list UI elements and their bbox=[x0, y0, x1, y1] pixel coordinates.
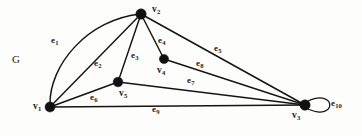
edge-e9 bbox=[50, 105, 305, 107]
graph-canvas bbox=[0, 0, 362, 136]
edge-label-e4-subscript: 4 bbox=[162, 39, 165, 46]
edge-label-e3-subscript: 3 bbox=[135, 54, 138, 61]
vertex-label-v3-subscript: 3 bbox=[297, 114, 300, 121]
vertex-label-v3: v3 bbox=[292, 111, 300, 121]
vertex-v3[interactable] bbox=[300, 100, 310, 110]
edge-label-e6-subscript: 6 bbox=[94, 96, 97, 103]
edge-label-e1-subscript: 1 bbox=[55, 39, 58, 46]
vertex-label-v1: v1 bbox=[33, 102, 41, 112]
edge-label-e10-subscript: 10 bbox=[335, 102, 342, 109]
edge-label-e4: e4 bbox=[158, 36, 165, 45]
edge-label-e7-subscript: 7 bbox=[191, 79, 194, 86]
vertex-label-v5: v5 bbox=[119, 89, 127, 99]
vertex-v1[interactable] bbox=[45, 102, 55, 112]
vertex-label-v5-subscript: 5 bbox=[124, 92, 127, 99]
edge-label-e5: e5 bbox=[214, 44, 221, 53]
edge-label-e2-subscript: 2 bbox=[98, 62, 101, 69]
edge-label-e2: e2 bbox=[94, 59, 101, 68]
vertex-v4[interactable] bbox=[159, 54, 168, 63]
edge-label-e8-subscript: 8 bbox=[200, 62, 203, 69]
graph-figure: v1v2v3v4v5e1e2e3e4e5e6e7e8e9e10G bbox=[0, 0, 362, 136]
vertex-layer bbox=[45, 9, 310, 112]
edge-label-e9: e9 bbox=[152, 105, 159, 114]
edge-e3 bbox=[118, 14, 141, 82]
edge-e6 bbox=[50, 82, 118, 107]
graph-name-label: G bbox=[12, 54, 20, 65]
edge-label-e5-subscript: 5 bbox=[218, 47, 221, 54]
edge-label-e1: e1 bbox=[51, 36, 58, 45]
edge-e7 bbox=[118, 82, 305, 105]
edge-label-e6: e6 bbox=[90, 93, 97, 102]
edge-label-e8: e8 bbox=[196, 59, 203, 68]
vertex-v2[interactable] bbox=[136, 9, 146, 19]
vertex-label-v2: v2 bbox=[152, 5, 160, 15]
edge-label-e9-subscript: 9 bbox=[156, 108, 159, 115]
vertex-label-v4-subscript: 4 bbox=[162, 69, 165, 76]
edge-e10 bbox=[308, 98, 330, 112]
graph-name-label-text: G bbox=[12, 53, 20, 65]
vertex-v5[interactable] bbox=[113, 77, 123, 87]
vertex-label-v1-subscript: 1 bbox=[38, 105, 41, 112]
edge-label-e7: e7 bbox=[187, 76, 194, 85]
edge-label-e10: e10 bbox=[331, 99, 342, 108]
vertex-label-v2-subscript: 2 bbox=[157, 8, 160, 15]
vertex-label-v4: v4 bbox=[157, 66, 165, 76]
edge-label-e3: e3 bbox=[131, 51, 138, 60]
